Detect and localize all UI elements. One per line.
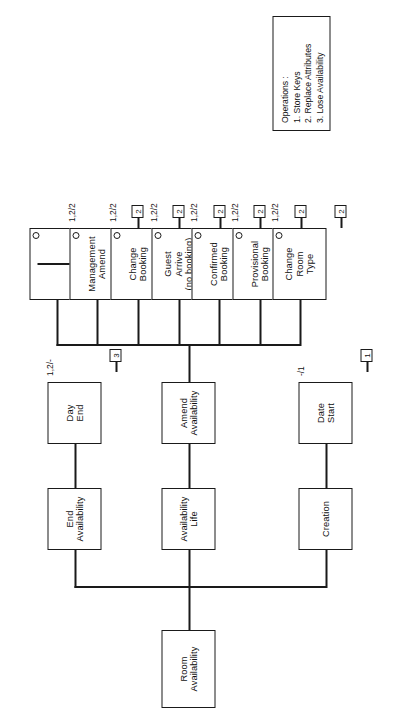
connector-root-stem [188,588,190,630]
selection-marker-icon-change-room-type [275,232,282,239]
selection-marker-icon-confirmed-booking [194,232,201,239]
node-end-availability-line2: Availability [74,497,84,542]
effect-label-change-room-type: 1,2/2 [269,203,279,222]
node-day-end[interactable]: Day End [47,382,101,444]
connector-to-creation [325,550,327,588]
effect-label-change-booking: 1,2/2 [107,203,117,222]
node-room-availability-line2: Availability [188,647,198,692]
connector-amend-to-confirmed-booking [218,300,220,346]
node-change-room-type-line3: Type [304,254,314,275]
node-change-room-type-line1: Change [283,247,293,280]
node-amend-availability-line2: Availability [188,391,198,436]
operations-legend-item-3: 3. Lose Availability [314,24,326,123]
node-change-booking-label: Change Booking [127,245,148,283]
stub-day-end-op [115,362,117,372]
entity-life-history-diagram: Room Availability End Availability Avail… [0,0,397,728]
node-room-availability[interactable]: Room Availability [161,630,215,708]
node-end-availability[interactable]: End Availability [47,488,101,550]
connector-availability-life-to-amend [188,444,190,488]
operation-box-management-amend[interactable]: 2 [131,205,143,218]
effect-label-provisional-booking: 1,2/2 [229,203,239,222]
node-management-amend-line1: Management [86,236,96,291]
node-guest-arrive-line1: Guest [162,251,172,276]
stub-guest-arrive-op [219,218,221,228]
connector-amend-to-null-leaf [56,300,58,346]
node-provisional-booking-label: Provisional Booking [249,239,270,290]
node-amend-availability[interactable]: Amend Availability [161,382,215,444]
node-availability-life-line1: Availability [178,497,188,542]
node-change-room-type[interactable]: Change Room Type [272,228,326,300]
node-end-availability-label: End Availability [64,495,85,544]
selection-marker-icon-guest-arrive [154,232,161,239]
node-guest-arrive-line2: Arrive [173,252,183,277]
node-confirmed-booking-line1: Confirmed [208,242,218,286]
connector-amend-to-change-room-type [299,300,301,346]
node-guest-arrive-label: Guest Arrive (no booking) [162,236,193,293]
node-change-booking-line2: Booking [137,247,147,281]
operation-box-confirmed-booking[interactable]: 2 [253,205,265,218]
stub-change-booking-op [178,218,180,228]
node-management-amend-label: Management Amend [86,234,107,293]
node-amend-availability-line1: Amend [178,398,188,428]
selection-marker-icon-management-amend [72,232,79,239]
stub-date-start-op [366,362,368,372]
node-creation[interactable]: Creation [298,488,352,550]
connector-creation-to-date-start [325,444,327,488]
node-date-start-line1: Date [315,403,325,423]
node-provisional-booking-line2: Booking [259,247,269,281]
node-confirmed-booking-label: Confirmed Booking [208,240,229,288]
node-confirmed-booking-line2: Booking [218,247,228,281]
connector-amend-to-management-amend [96,300,98,346]
stub-change-room-type-op [340,218,342,228]
connector-to-end-availability [74,550,76,588]
node-date-start[interactable]: Date Start [298,382,352,444]
stub-management-amend-op [137,218,139,228]
operations-legend-item-2: 2. Replace Attributes [302,24,314,123]
node-creation-label: Creation [320,499,330,539]
node-date-start-line2: Start [325,403,335,423]
node-availability-life[interactable]: Availability Life [161,488,215,550]
node-day-end-line1: Day [64,405,74,422]
effect-label-management-amend: 1,2/2 [66,203,76,222]
operations-legend-title: Operations : [279,24,291,123]
operation-box-date-start[interactable]: 1 [360,349,372,362]
selection-marker-icon-null-leaf [32,232,39,239]
node-change-room-type-line2: Room [294,251,304,276]
node-provisional-booking-line1: Provisional [249,241,259,288]
node-date-start-label: Date Start [315,401,336,425]
effect-label-confirmed-booking: 1,2/2 [188,203,198,222]
node-management-amend-line2: Amend [96,249,106,279]
node-change-room-type-label: Change Room Type [283,245,314,282]
diagram-canvas: Room Availability End Availability Avail… [0,0,397,728]
operations-legend: Operations : 1. Store Keys 2. Replace At… [272,16,330,131]
node-change-booking-line1: Change [127,247,137,280]
node-availability-life-label: Availability Life [178,495,199,544]
node-room-availability-line1: Room [178,656,188,681]
node-room-availability-label: Room Availability [178,645,199,694]
connector-amend-to-guest-arrive [178,300,180,346]
connector-to-availability-life [188,550,190,588]
node-amend-availability-label: Amend Availability [178,389,199,438]
operation-box-provisional-booking[interactable]: 2 [294,205,306,218]
effect-label-day-end: 1,2/- [44,359,54,376]
connector-amend-to-provisional-booking [259,300,261,346]
effect-label-guest-arrive: 1,2/2 [148,203,158,222]
effect-label-date-start: -/1 [295,366,305,376]
selection-marker-icon-provisional-booking [235,232,242,239]
stub-provisional-booking-op [300,218,302,228]
node-availability-life-line2: Life [188,511,198,526]
operations-legend-item-1: 1. Store Keys [291,24,303,123]
connector-end-availability-to-day-end [74,444,76,488]
connector-amend-to-change-booking [137,300,139,346]
node-day-end-label: Day End [64,403,85,424]
operation-box-change-booking[interactable]: 2 [172,205,184,218]
connector-amend-stem [188,346,190,382]
connector-level1-spine [74,586,326,588]
node-end-availability-line1: End [64,511,74,528]
stub-confirmed-booking-op [259,218,261,228]
operation-box-day-end[interactable]: 3 [109,349,121,362]
selection-marker-icon-change-booking [113,232,120,239]
operation-box-change-room-type[interactable]: 2 [334,205,346,218]
node-day-end-line2: End [74,405,84,422]
operation-box-guest-arrive[interactable]: 2 [213,205,225,218]
